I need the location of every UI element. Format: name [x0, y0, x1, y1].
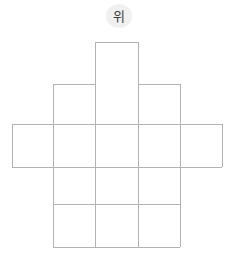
- net-faces-group: [12, 42, 222, 247]
- net-face-band-left-flap: [12, 124, 53, 167]
- net-face-band-r2c3: [138, 124, 180, 167]
- net-face-band-r2c1: [53, 124, 96, 167]
- net-face-body-r3c3: [138, 167, 180, 204]
- net-face-body-r4c3: [138, 204, 180, 247]
- net-face-body-r4c2: [96, 204, 139, 247]
- net-face-body-r3c2: [96, 167, 139, 204]
- net-face-body-r3c1: [53, 167, 96, 204]
- net-face-top-flap: [96, 42, 139, 84]
- net-face-band-r2c2: [96, 124, 139, 167]
- net-face-body-r1c2: [96, 84, 139, 124]
- cube-net-svg: [0, 0, 238, 257]
- net-face-body-r4c1: [53, 204, 96, 247]
- net-face-body-r1c1: [53, 84, 96, 124]
- net-face-band-right-flap: [180, 124, 222, 167]
- net-face-body-r1c3: [138, 84, 180, 124]
- cube-net-figure: 위: [0, 0, 238, 257]
